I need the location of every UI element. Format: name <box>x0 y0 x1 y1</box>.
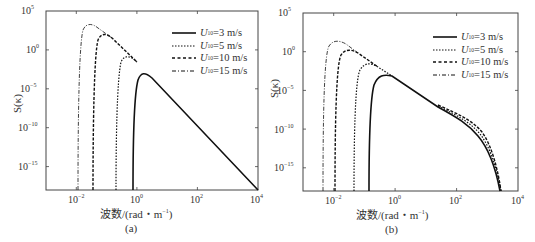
x-tick-label: 102 <box>449 194 462 206</box>
x-axis-label: 波数/(rad・m−1) <box>100 205 172 221</box>
legend-item: U10=15 m/s <box>433 69 508 82</box>
x-tick-label: 104 <box>511 194 524 206</box>
x-tick-label: 100 <box>130 193 143 205</box>
legend-item: U10=10 m/s <box>172 52 247 65</box>
y-tick-label: 105 <box>21 4 34 16</box>
curve-u10-3 <box>369 75 500 191</box>
panel-caption: (a) <box>125 222 137 234</box>
curve-u10-3 <box>133 74 258 190</box>
chart-panel-b: 105 100 10−5 10−10 10−15 10−2 100 102 10… <box>268 0 535 242</box>
x-tick-label: 10−2 <box>325 194 341 206</box>
legend-item: U10=3 m/s <box>172 27 247 40</box>
y-tick-label: 10−15 <box>274 161 293 173</box>
legend-item: U10=15 m/s <box>172 65 247 78</box>
curve-u10-5 <box>354 64 501 191</box>
y-tick-label: 105 <box>278 6 291 18</box>
legend-item: U10=10 m/s <box>433 56 508 69</box>
y-tick-label: 100 <box>26 43 39 55</box>
y-axis-label: S(κ) <box>11 94 23 113</box>
legend: U10=3 m/s U10=5 m/s U10=10 m/s U10=15 m/… <box>172 27 247 77</box>
curve-u10-15 <box>323 41 358 191</box>
y-tick-label: 10−10 <box>18 121 37 133</box>
curve-u10-15 <box>78 24 112 190</box>
x-tick-label: 100 <box>388 194 401 206</box>
x-tick-label: 104 <box>250 193 263 205</box>
legend: U10=3 m/s U10=5 m/s U10=10 m/s U10=15 m/… <box>433 31 508 81</box>
legend-item: U10=3 m/s <box>433 31 508 44</box>
legend-item: U10=5 m/s <box>172 40 247 53</box>
y-axis-label: S(κ) <box>268 79 280 98</box>
panel-caption: (b) <box>385 223 398 235</box>
legend-item: U10=5 m/s <box>433 44 508 57</box>
y-tick-label: 10−5 <box>20 82 36 94</box>
y-tick-label: 100 <box>282 45 295 57</box>
y-tick-label: 10−10 <box>274 123 293 135</box>
curve-u10-10 <box>93 34 137 190</box>
x-tick-label: 102 <box>190 193 203 205</box>
chart-panel-a: 105 100 10−5 10−10 10−15 10−2 100 102 10… <box>0 0 267 242</box>
x-tick-label: 10−2 <box>68 193 84 205</box>
y-tick-label: 10−15 <box>18 160 37 172</box>
x-axis-label: 波数/(rad・m−1) <box>356 206 428 222</box>
